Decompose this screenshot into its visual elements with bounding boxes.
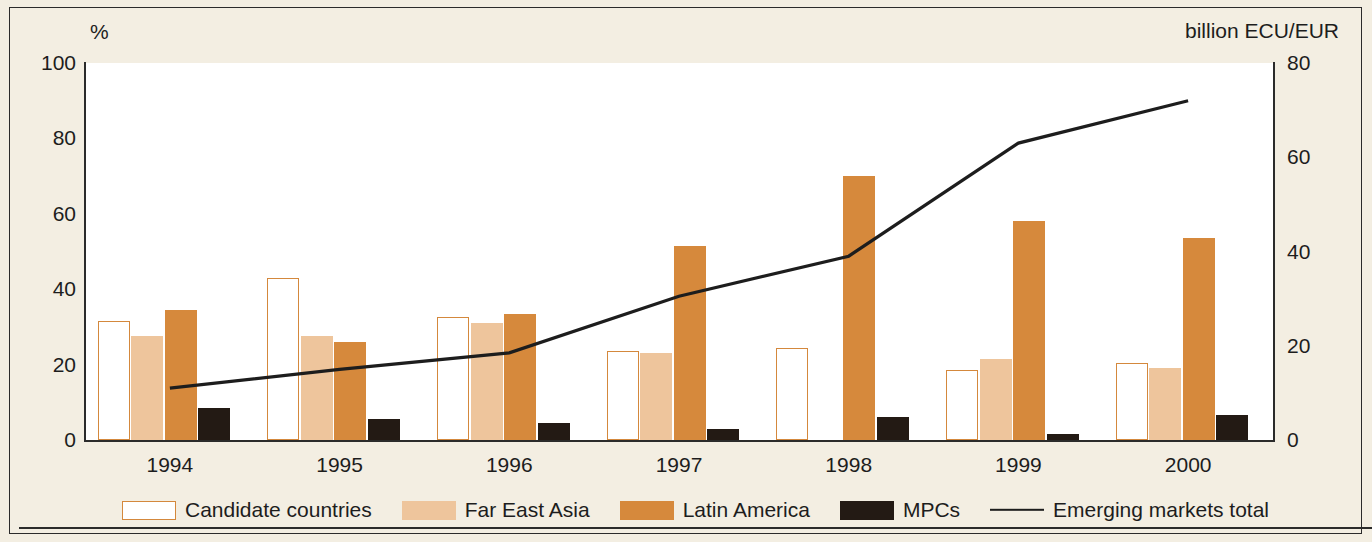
- left-axis-tick-80: 80: [53, 127, 76, 148]
- chart-frame: % billion ECU/EUR 100806040200 806040200…: [9, 7, 1362, 534]
- right-axis-tick-0: 0: [1287, 429, 1299, 450]
- legend-swatch-fareast-icon: [402, 501, 456, 520]
- bar-latin-1996: [504, 314, 536, 440]
- bar-mpc-1997: [707, 429, 739, 440]
- legend-label-mpc: MPCs: [903, 498, 960, 522]
- chart-legend: Candidate countriesFar East AsiaLatin Am…: [19, 492, 1372, 528]
- legend-swatch-line-icon: [990, 501, 1044, 520]
- bar-candidate-1995: [267, 278, 299, 440]
- bar-fareast-1994: [131, 336, 163, 440]
- bar-candidate-1997: [607, 351, 639, 440]
- legend-item-candidate[interactable]: Candidate countries: [122, 498, 372, 522]
- legend-item-mpc[interactable]: MPCs: [840, 498, 960, 522]
- legend-label-fareast: Far East Asia: [465, 498, 590, 522]
- bar-fareast-1995: [301, 336, 333, 440]
- bar-mpc-1998: [877, 417, 909, 440]
- bar-fareast-1996: [471, 323, 503, 440]
- legend-item-latin[interactable]: Latin America: [620, 498, 810, 522]
- x-axis-label-1998: 1998: [825, 453, 872, 477]
- bar-latin-1994: [165, 310, 197, 440]
- bar-mpc-1996: [538, 423, 570, 440]
- bar-candidate-1999: [946, 370, 978, 440]
- left-axis-unit-label: %: [90, 20, 109, 44]
- x-axis-label-2000: 2000: [1165, 453, 1212, 477]
- bar-mpc-1999: [1047, 434, 1079, 440]
- right-axis-unit-label: billion ECU/EUR: [1185, 19, 1339, 43]
- left-axis-tick-20: 20: [53, 354, 76, 375]
- right-axis-line: [1273, 62, 1275, 441]
- left-axis-tick-60: 60: [53, 203, 76, 224]
- left-axis-tick-100: 100: [41, 52, 76, 73]
- bar-fareast-1999: [980, 359, 1012, 440]
- bar-candidate-1996: [437, 317, 469, 440]
- legend-swatch-mpc-icon: [840, 501, 894, 520]
- x-axis-label-1994: 1994: [146, 453, 193, 477]
- legend-label-latin: Latin America: [683, 498, 810, 522]
- left-axis-line: [84, 62, 86, 441]
- bar-latin-1999: [1013, 221, 1045, 440]
- legend-swatch-candidate-icon: [122, 501, 176, 520]
- x-axis-label-1995: 1995: [316, 453, 363, 477]
- right-axis-tick-20: 20: [1287, 335, 1310, 356]
- legend-item-line[interactable]: Emerging markets total: [990, 498, 1269, 522]
- bar-candidate-1994: [98, 321, 130, 440]
- bar-fareast-2000: [1149, 368, 1181, 440]
- legend-label-candidate: Candidate countries: [185, 498, 372, 522]
- right-axis-tick-80: 80: [1287, 52, 1310, 73]
- bar-latin-2000: [1183, 238, 1215, 440]
- bar-latin-1998: [843, 176, 875, 440]
- legend-item-fareast[interactable]: Far East Asia: [402, 498, 590, 522]
- legend-swatch-latin-icon: [620, 501, 674, 520]
- x-axis-line: [84, 440, 1275, 442]
- bar-candidate-1998: [776, 348, 808, 440]
- x-axis-label-1996: 1996: [486, 453, 533, 477]
- right-axis-tick-40: 40: [1287, 241, 1310, 262]
- legend-label-line: Emerging markets total: [1053, 498, 1269, 522]
- bar-latin-1995: [334, 342, 366, 440]
- x-axis-label-1999: 1999: [995, 453, 1042, 477]
- left-axis-tick-0: 0: [64, 429, 76, 450]
- left-axis-tick-40: 40: [53, 278, 76, 299]
- bar-mpc-1994: [198, 408, 230, 440]
- right-axis-tick-60: 60: [1287, 146, 1310, 167]
- x-axis-label-1997: 1997: [656, 453, 703, 477]
- bar-fareast-1997: [640, 353, 672, 440]
- bar-candidate-2000: [1116, 363, 1148, 440]
- bar-mpc-2000: [1216, 415, 1248, 440]
- bar-latin-1997: [674, 246, 706, 440]
- bar-mpc-1995: [368, 419, 400, 440]
